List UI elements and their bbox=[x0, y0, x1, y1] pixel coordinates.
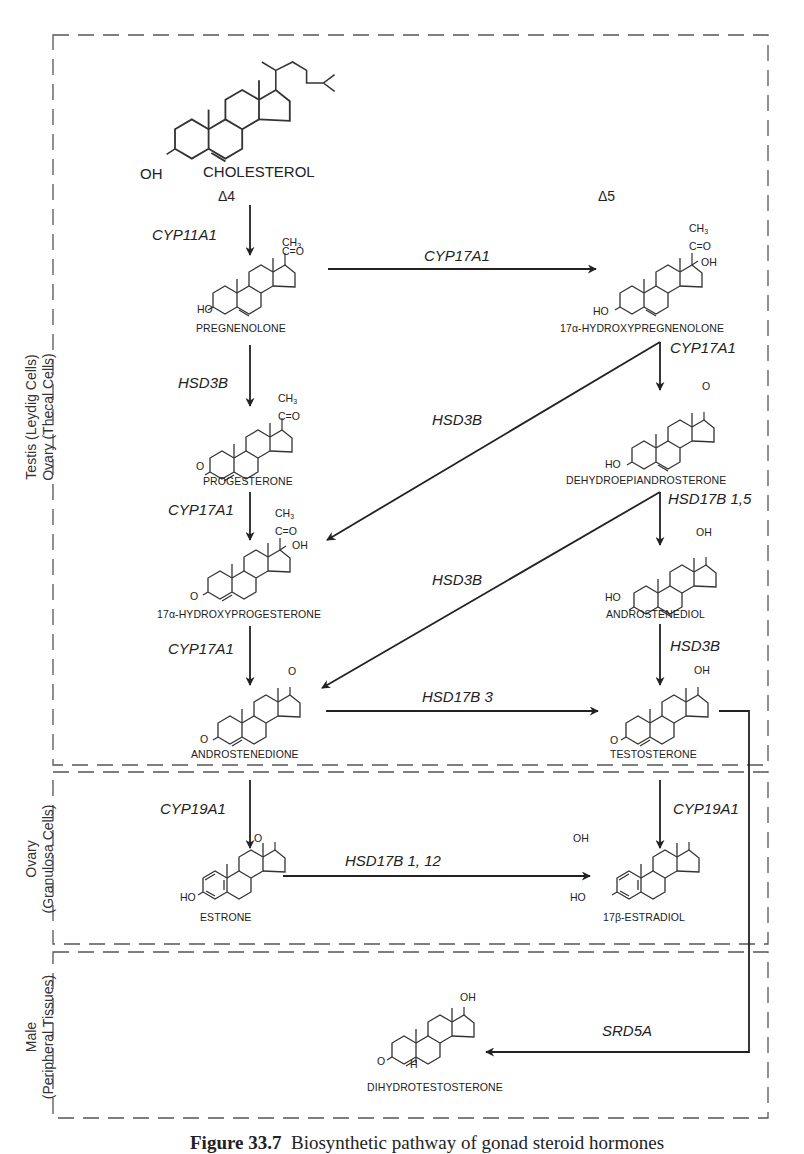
estrone-keto-o: O bbox=[254, 832, 262, 844]
delta4-label: Δ4 bbox=[218, 188, 235, 204]
region-label-line: (Granulosa Cells) bbox=[40, 789, 57, 929]
enzyme-cyp17a1-ohprog: CYP17A1 bbox=[168, 640, 234, 657]
compound-dht: DIHYDROTESTOSTERONE bbox=[367, 1081, 503, 1093]
figure-caption: Figure 33.7 Biosynthetic pathway of gona… bbox=[190, 1132, 664, 1154]
testo-oh: OH bbox=[694, 664, 710, 676]
progesterone-co: C=O bbox=[278, 410, 300, 422]
region-box-male-peripheral bbox=[53, 952, 768, 1118]
arrow-ohpreg-ohprog bbox=[327, 342, 660, 540]
ohpreg-oh: OH bbox=[701, 256, 717, 268]
compound-pregnenolone: PREGNENOLONE bbox=[196, 322, 286, 334]
enzyme-cyp19a1-left: CYP19A1 bbox=[160, 800, 226, 817]
ohprog-oh: OH bbox=[292, 539, 308, 551]
ohprog-ch3: CH3 bbox=[275, 507, 294, 520]
adione-keto-o: O bbox=[288, 665, 296, 677]
enzyme-cyp17a1-ohpreg: CYP17A1 bbox=[670, 339, 736, 356]
compound-androstenediol: ANDROSTENEDIOL bbox=[606, 608, 705, 620]
compound-testosterone: TESTOSTERONE bbox=[610, 748, 697, 760]
pregnenolone-ho: HO bbox=[197, 303, 213, 315]
region-label-line: Testis (Leydig Cells) bbox=[23, 337, 40, 497]
estrone-ho: HO bbox=[180, 891, 196, 903]
dhea-structure bbox=[627, 412, 714, 471]
region-label-line: (Peripheral Tissues) bbox=[40, 957, 57, 1117]
compound-progesterone: PROGESTERONE bbox=[203, 475, 293, 487]
region-label-line: Male bbox=[23, 957, 40, 1117]
adione-o: O bbox=[200, 733, 208, 745]
figure-number: Figure 33.7 bbox=[190, 1132, 281, 1153]
enzyme-hsd17b15: HSD17B 1,5 bbox=[668, 490, 751, 507]
region-label-ovary-granulosa: Ovary (Granulosa Cells) bbox=[23, 789, 57, 929]
figure-caption-text: Biosynthetic pathway of gonad steroid ho… bbox=[291, 1132, 664, 1153]
enzyme-cyp11a1: CYP11A1 bbox=[152, 226, 217, 243]
hydroxyprogesterone-structure bbox=[203, 538, 290, 601]
enzyme-hsd3b-adiol: HSD3B bbox=[670, 637, 720, 654]
ohprog-o: O bbox=[190, 590, 198, 602]
compound-hydroxyprogesterone: 17α-HYDROXYPROGESTERONE bbox=[157, 608, 321, 620]
dht-structure bbox=[387, 1007, 474, 1066]
estradiol-oh: OH bbox=[573, 832, 589, 844]
region-label-male-peripheral: Male (Peripheral Tissues) bbox=[23, 957, 57, 1117]
arrow-dhea-adione bbox=[322, 492, 660, 688]
dhea-ho: HO bbox=[605, 458, 621, 470]
progesterone-ch3: CH3 bbox=[278, 392, 297, 405]
adiol-oh: OH bbox=[696, 526, 712, 538]
enzyme-cyp17a1-prog: CYP17A1 bbox=[168, 501, 234, 518]
enzyme-hsd3b-preg: HSD3B bbox=[178, 374, 228, 391]
enzyme-hsd3b-ohpreg: HSD3B bbox=[432, 411, 482, 428]
testo-o: O bbox=[610, 734, 618, 746]
ohprog-co: C=O bbox=[275, 525, 297, 537]
delta5-label: Δ5 bbox=[598, 188, 615, 204]
adiol-ho: HO bbox=[605, 591, 621, 603]
enzyme-cyp17a1-preg: CYP17A1 bbox=[424, 247, 490, 264]
dht-o: O bbox=[377, 1055, 385, 1067]
testosterone-structure bbox=[621, 687, 708, 746]
region-label-testis-ovary: Testis (Leydig Cells) Ovary (Thecal Cell… bbox=[23, 337, 57, 497]
compound-androstenedione: ANDROSTENEDIONE bbox=[191, 748, 299, 760]
estradiol-ho: HO bbox=[570, 891, 586, 903]
compound-hydroxypregnenolone: 17α-HYDROXYPREGNENOLONE bbox=[560, 322, 724, 334]
compound-estradiol: 17β-ESTRADIOL bbox=[603, 911, 685, 923]
estradiol-structure bbox=[612, 842, 699, 899]
pregnenolone-structure bbox=[208, 253, 295, 316]
enzyme-cyp19a1-right: CYP19A1 bbox=[673, 800, 739, 817]
enzyme-hsd17b3: HSD17B 3 bbox=[422, 688, 493, 705]
dht-oh: OH bbox=[460, 991, 476, 1003]
compound-cholesterol: CHOLESTEROL bbox=[203, 163, 315, 180]
cholesterol-structure bbox=[167, 62, 335, 161]
enzyme-srd5a: SRD5A bbox=[602, 1022, 652, 1039]
cholesterol-oh: OH bbox=[140, 165, 163, 182]
ohpreg-co: C=O bbox=[689, 240, 711, 252]
enzyme-hsd3b-dhea: HSD3B bbox=[432, 571, 482, 588]
dhea-keto-o: O bbox=[702, 380, 710, 392]
estrone-structure bbox=[198, 842, 285, 899]
region-label-line: Ovary bbox=[23, 789, 40, 929]
dht-h: H bbox=[410, 1058, 418, 1070]
progesterone-structure bbox=[205, 418, 292, 481]
ohpreg-ch3: CH3 bbox=[689, 222, 708, 235]
region-label-line: Ovary (Thecal Cells) bbox=[40, 337, 57, 497]
ohpreg-ho: HO bbox=[593, 305, 609, 317]
pregnenolone-co: C=O bbox=[282, 245, 304, 257]
androstenedione-structure bbox=[213, 687, 300, 746]
progesterone-o: O bbox=[196, 460, 204, 472]
compound-estrone: ESTRONE bbox=[200, 911, 251, 923]
hydroxypregnenolone-structure bbox=[615, 253, 702, 316]
enzyme-hsd17b112: HSD17B 1, 12 bbox=[345, 852, 441, 869]
compound-dhea: DEHYDROEPIANDROSTERONE bbox=[566, 474, 726, 486]
